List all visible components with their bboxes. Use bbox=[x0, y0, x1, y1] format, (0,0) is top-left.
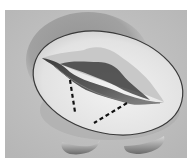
illustration-canvas bbox=[0, 0, 192, 164]
valve-illustration bbox=[0, 0, 192, 164]
